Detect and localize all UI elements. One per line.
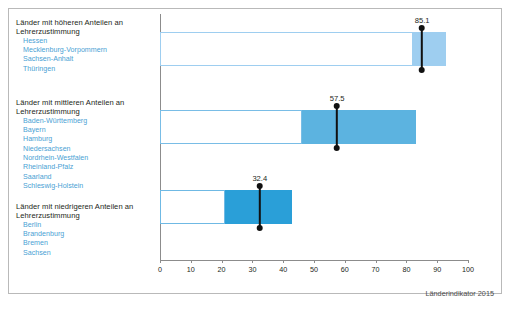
bar-open-segment <box>160 110 302 144</box>
x-tick-label: 50 <box>310 265 318 274</box>
bar-fill-segment <box>413 32 447 66</box>
group-item: Saarland <box>16 173 156 182</box>
x-tick-label: 0 <box>158 265 162 274</box>
category-group-low: Länder mit niedrigeren Anteilen an Lehre… <box>16 202 156 258</box>
x-tick-label: 70 <box>372 265 380 274</box>
category-group-middle: Länder mit mittleren Anteilen an Lehrerz… <box>16 98 156 191</box>
group-item: Rheinland-Pfalz <box>16 163 156 172</box>
mean-marker <box>336 106 338 148</box>
group-item: Baden-Württemberg <box>16 117 156 126</box>
mean-marker <box>421 28 423 70</box>
x-tick <box>160 260 161 263</box>
bar-row-high[interactable]: 85.1 <box>160 32 468 66</box>
x-tick-label: 10 <box>187 265 195 274</box>
x-tick <box>222 260 223 263</box>
x-tick-label: 100 <box>462 265 474 274</box>
marker-value-label: 32.4 <box>252 174 267 183</box>
x-tick <box>314 260 315 263</box>
plot-area: 0102030405060708090100 85.1 57.5 <box>160 14 468 260</box>
x-tick-label: 90 <box>433 265 441 274</box>
group-heading-line1: Länder mit mittleren Anteilen an <box>16 98 156 107</box>
marker-cap-top <box>334 103 340 109</box>
x-tick <box>468 260 469 263</box>
chart-figure: Länder mit höheren Anteilen an Lehrerzus… <box>0 0 512 312</box>
source-note: Länderindikator 2015 <box>425 289 494 298</box>
group-item: Nordrhein-Westfalen <box>16 154 156 163</box>
group-heading-line1: Länder mit höheren Anteilen an <box>16 18 156 27</box>
x-tick-label: 60 <box>341 265 349 274</box>
mean-marker <box>259 186 261 228</box>
group-item: Sachsen-Anhalt <box>16 55 156 64</box>
group-item: Berlin <box>16 221 156 230</box>
group-item: Hessen <box>16 37 156 46</box>
x-tick <box>437 260 438 263</box>
bar-row-middle[interactable]: 57.5 <box>160 110 468 144</box>
category-label-column: Länder mit höheren Anteilen an Lehrerzus… <box>16 10 156 266</box>
marker-cap-top <box>419 25 425 31</box>
group-heading-line2: Lehrerzustimmung <box>16 27 156 36</box>
group-item: Thüringen <box>16 65 156 74</box>
x-tick <box>345 260 346 263</box>
group-item: Niedersachsen <box>16 145 156 154</box>
bar-open-segment <box>160 190 225 224</box>
x-tick-label: 20 <box>218 265 226 274</box>
x-tick <box>191 260 192 263</box>
marker-cap-bottom <box>334 145 340 151</box>
marker-value-label: 85.1 <box>415 16 430 25</box>
x-tick <box>283 260 284 263</box>
group-item: Hamburg <box>16 135 156 144</box>
group-item: Brandenburg <box>16 230 156 239</box>
category-group-high: Länder mit höheren Anteilen an Lehrerzus… <box>16 18 156 74</box>
marker-value-label: 57.5 <box>330 94 345 103</box>
x-tick <box>376 260 377 263</box>
x-tick-label: 30 <box>248 265 256 274</box>
bar-fill-segment <box>302 110 416 144</box>
group-item: Mecklenburg-Vorpommern <box>16 46 156 55</box>
group-item: Schleswig-Holstein <box>16 182 156 191</box>
x-tick-label: 80 <box>402 265 410 274</box>
x-tick-label: 40 <box>279 265 287 274</box>
x-tick <box>252 260 253 263</box>
bar-open-segment <box>160 32 413 66</box>
group-heading-line1: Länder mit niedrigeren Anteilen an <box>16 202 156 211</box>
group-item: Sachsen <box>16 249 156 258</box>
marker-cap-bottom <box>257 225 263 231</box>
x-tick <box>406 260 407 263</box>
marker-cap-bottom <box>419 67 425 73</box>
group-heading-line2: Lehrerzustimmung <box>16 211 156 220</box>
marker-cap-top <box>257 183 263 189</box>
group-item: Bayern <box>16 126 156 135</box>
group-heading-line2: Lehrerzustimmung <box>16 107 156 116</box>
bar-row-low[interactable]: 32.4 <box>160 190 468 224</box>
group-item: Bremen <box>16 239 156 248</box>
